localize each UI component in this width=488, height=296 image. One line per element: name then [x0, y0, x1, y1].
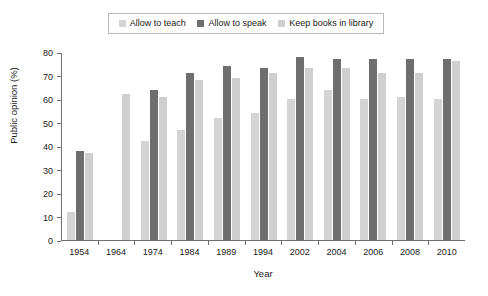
x-axis-tick-mark: [208, 241, 209, 245]
bar-2006-series-1: [369, 59, 377, 240]
bar-group: [135, 53, 172, 240]
bar-group: [392, 53, 429, 240]
bar-1984-series-0: [177, 130, 185, 240]
bar-2008-series-2: [415, 73, 423, 240]
chart-figure: Allow to teach Allow to speak Keep books…: [0, 0, 488, 296]
bar-group: [62, 53, 99, 240]
x-axis-tick-label: 2004: [318, 247, 355, 257]
bar-2004-series-2: [342, 68, 350, 240]
bar-1984-series-2: [195, 80, 203, 240]
bar-2006-series-2: [378, 73, 386, 240]
legend-swatch-allow-to-teach: [119, 20, 126, 27]
bar-group: [355, 53, 392, 240]
legend-swatch-keep-books-in-library: [278, 20, 285, 27]
bar-2004-series-1: [333, 59, 341, 240]
x-axis-tick-label: 1984: [171, 247, 208, 257]
x-axis-tick-mark: [281, 241, 282, 245]
bar-1989-series-0: [214, 118, 222, 240]
bar-2008-series-1: [406, 59, 414, 240]
x-axis-tick-mark: [318, 241, 319, 245]
bar-2010-series-0: [434, 99, 442, 240]
legend-item-allow-to-teach: Allow to teach: [119, 19, 186, 28]
bar-group: [245, 53, 282, 240]
x-axis-title: Year: [61, 268, 465, 279]
bar-2004-series-0: [324, 90, 332, 240]
x-axis-tick-mark: [392, 241, 393, 245]
bar-1964-series-2: [122, 94, 130, 240]
x-axis-tick-label: 2006: [355, 247, 392, 257]
x-axis-tick-label: 1989: [208, 247, 245, 257]
bar-1974-series-1: [150, 90, 158, 240]
legend-item-keep-books-in-library: Keep books in library: [278, 19, 373, 28]
legend-label-allow-to-teach: Allow to teach: [130, 19, 186, 28]
x-axis-tick-label: 1954: [61, 247, 98, 257]
bar-group: [172, 53, 209, 240]
x-axis-tick-mark: [245, 241, 246, 245]
bar-1974-series-2: [159, 97, 167, 240]
x-axis-tick-label: 1994: [245, 247, 282, 257]
y-axis-title: Public opinion (%): [8, 46, 19, 166]
x-axis-tick-label: 2008: [392, 247, 429, 257]
x-axis-tick-label: 2010: [428, 247, 465, 257]
x-axis-tick-mark: [134, 241, 135, 245]
x-axis-tick-mark: [98, 241, 99, 245]
bar-1974-series-0: [141, 141, 149, 240]
x-axis-tick-mark: [355, 241, 356, 245]
bar-2002-series-1: [296, 57, 304, 240]
y-axis-tick-label: 80: [43, 48, 61, 58]
bar-group: [209, 53, 246, 240]
bar-1954-series-0: [67, 212, 75, 240]
x-axis-tick-mark: [171, 241, 172, 245]
bar-1984-series-1: [186, 73, 194, 240]
bar-1954-series-2: [85, 153, 93, 240]
bar-2010-series-1: [443, 59, 451, 240]
bar-2010-series-2: [452, 61, 460, 240]
x-axis-tick-label: 1974: [134, 247, 171, 257]
bar-group: [428, 53, 465, 240]
y-axis-tick-label: 40: [43, 142, 61, 152]
bar-group: [282, 53, 319, 240]
bar-2008-series-0: [397, 97, 405, 240]
y-axis-tick-label: 30: [43, 166, 61, 176]
bar-1994-series-2: [269, 73, 277, 240]
legend-label-allow-to-speak: Allow to speak: [208, 19, 266, 28]
y-axis-tick-label: 0: [48, 236, 61, 246]
chart-legend: Allow to teach Allow to speak Keep books…: [108, 13, 384, 34]
x-axis-tick-mark: [428, 241, 429, 245]
bar-group: [99, 53, 136, 240]
legend-item-allow-to-speak: Allow to speak: [197, 19, 266, 28]
bar-1994-series-0: [251, 113, 259, 240]
y-axis-tick-label: 20: [43, 189, 61, 199]
bar-1989-series-1: [223, 66, 231, 240]
y-axis-tick-label: 50: [43, 119, 61, 129]
x-axis-labels: 1954196419741984198919942002200420062008…: [61, 247, 465, 257]
bar-group: [318, 53, 355, 240]
x-axis-tick-label: 1964: [98, 247, 135, 257]
legend-swatch-allow-to-speak: [197, 20, 204, 27]
y-axis-tick-label: 10: [43, 213, 61, 223]
y-axis-tick-label: 70: [43, 72, 61, 82]
bar-1989-series-2: [232, 78, 240, 240]
bar-1954-series-1: [76, 151, 84, 240]
bar-1994-series-1: [260, 68, 268, 240]
legend-label-keep-books-in-library: Keep books in library: [289, 19, 373, 28]
x-axis-tick-label: 2002: [281, 247, 318, 257]
bar-groups: [62, 53, 465, 240]
y-axis-tick-label: 60: [43, 95, 61, 105]
plot-area: [61, 53, 465, 241]
bar-2002-series-2: [305, 68, 313, 240]
bar-2002-series-0: [287, 99, 295, 240]
bar-2006-series-0: [360, 99, 368, 240]
